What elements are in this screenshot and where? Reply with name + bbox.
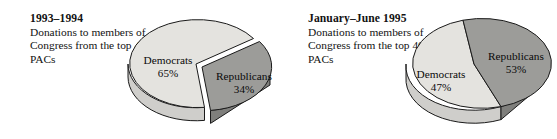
republicans-label-name: Republicans bbox=[216, 70, 272, 82]
republicans-label-pct: 34% bbox=[204, 83, 284, 96]
democrats-label-1993-1994: Democrats 65% bbox=[132, 54, 204, 80]
republicans-label-1993-1994: Republicans 34% bbox=[204, 70, 284, 96]
republicans-label-pct: 53% bbox=[474, 63, 557, 76]
pie-chart-jan-june-1995: Democrats 47% Republicans 53% bbox=[400, 6, 556, 134]
democrats-label-jan-june-1995: Democrats 47% bbox=[404, 68, 478, 94]
pie-chart-1993-1994: Democrats 65% Republicans 34% bbox=[122, 6, 278, 134]
chart-panel-jan-june-1995: January–June 1995 Donations to members o… bbox=[278, 0, 556, 139]
democrats-label-name: Democrats bbox=[417, 68, 466, 80]
pac-donations-figure: 1993–1994 Donations to members of Congre… bbox=[0, 0, 557, 139]
republicans-label-jan-june-1995: Republicans 53% bbox=[474, 50, 557, 76]
chart-panel-1993-1994: 1993–1994 Donations to members of Congre… bbox=[0, 0, 278, 139]
democrats-label-pct: 65% bbox=[132, 67, 204, 80]
republicans-label-name: Republicans bbox=[488, 50, 544, 62]
democrats-label-name: Democrats bbox=[144, 54, 193, 66]
democrats-label-pct: 47% bbox=[404, 81, 478, 94]
